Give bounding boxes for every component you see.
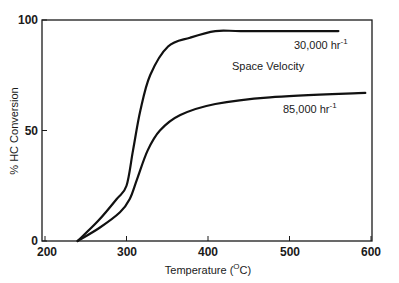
x-tick-400: 400: [198, 245, 218, 259]
x-tick-600: 600: [361, 245, 381, 259]
x-tick-500: 500: [280, 245, 300, 259]
series-label-30000: 30,000 hr-1: [294, 37, 348, 51]
x-tick-200: 200: [37, 245, 57, 259]
y-axis-label: % HC Conversion: [8, 87, 20, 174]
y-tick-50: 50: [25, 124, 38, 138]
series-label-85000: 85,000 hr-1: [283, 101, 337, 115]
y-ticks: [42, 20, 47, 241]
plot-frame: [42, 20, 372, 241]
y-tick-100: 100: [18, 13, 38, 27]
x-axis-label: Temperature (OC): [165, 262, 251, 276]
x-tick-300: 300: [117, 245, 137, 259]
x-ticks: [45, 236, 371, 241]
legend-title: Space Velocity: [232, 60, 304, 72]
series-line-85000: [78, 93, 366, 241]
